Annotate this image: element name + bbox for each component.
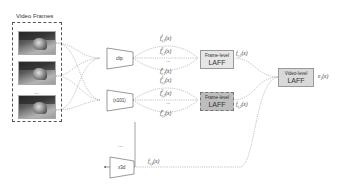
frame-level-laff-1: Frame-level LAFF <box>200 50 234 69</box>
feature-label-fn-v2: fnv,2(x) <box>160 110 171 118</box>
feature-label-f2-v2: f2v,2(x) <box>160 90 171 98</box>
encoders-ellipsis: ... <box>118 142 123 148</box>
feature-ellipsis-row2: ... <box>166 100 170 105</box>
feature-label-f1-v1: f1v,1(x) <box>160 35 171 43</box>
pooled-feature-v2: fv,2(x) <box>236 102 248 110</box>
frame-level-laff-2: Frame-level LAFF <box>200 92 234 111</box>
encoders-shapes <box>0 0 350 186</box>
clip-encoder-label: clip <box>116 56 123 61</box>
pooled-feature-vk: fv,k(x) <box>148 159 159 167</box>
x101-encoder-label: (x101) <box>113 98 126 103</box>
feature-label-f2-v1: f2v,1(x) <box>160 48 171 56</box>
feature-label-f1-v2: f1v,2(x) <box>160 77 171 85</box>
feature-ellipsis-row1: ... <box>166 58 170 63</box>
pooled-feature-v1: fv,1(x) <box>236 51 248 59</box>
video-level-laff: Video-level LAFF <box>278 68 314 87</box>
x3d-encoder-label: x3d <box>118 165 125 170</box>
diagram-canvas: Video Frames ... clip (x101) x3d ... f1v… <box>0 0 350 186</box>
output-embedding: e1(x) <box>318 74 328 82</box>
